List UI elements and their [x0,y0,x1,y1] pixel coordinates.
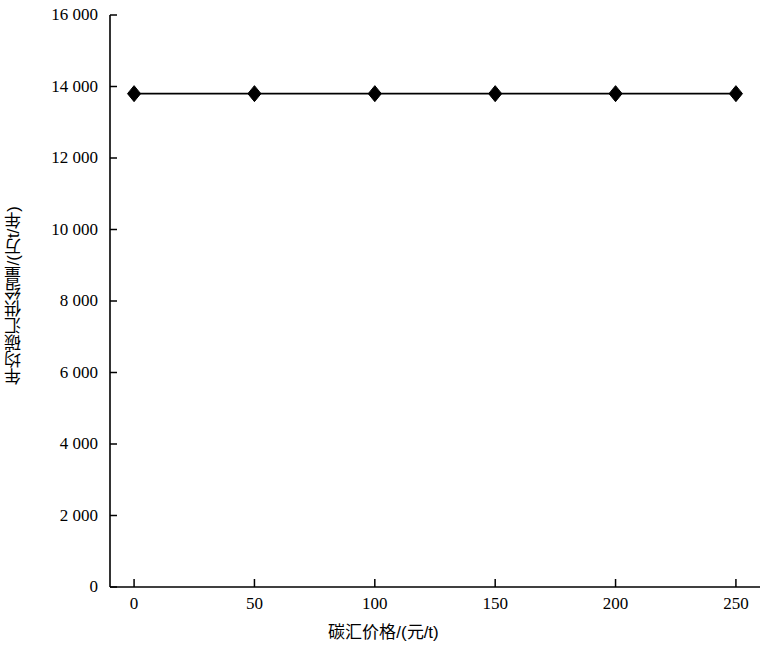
plot-area [0,0,767,656]
data-series-group [128,86,743,102]
data-point-marker [489,86,502,102]
data-point-marker [368,86,381,102]
data-point-marker [128,86,141,102]
data-point-marker [729,86,742,102]
axes-group [110,15,760,587]
data-point-marker [248,86,261,102]
data-point-marker [609,86,622,102]
chart-figure: 年均碳汇供给量/(万t/年) 02 0004 0006 0008 00010 0… [0,0,767,656]
